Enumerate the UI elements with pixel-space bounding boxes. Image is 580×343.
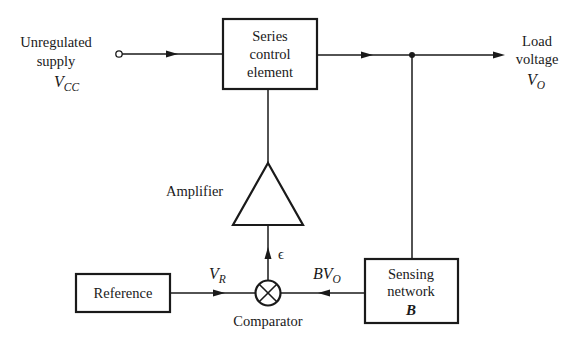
comparator-label: Comparator: [233, 313, 302, 329]
sensing-label-line2: network: [387, 283, 435, 299]
sensing-label-line3: B: [405, 302, 416, 318]
error-signal: ϵ: [265, 225, 285, 280]
sensing-label-line1: Sensing: [388, 266, 434, 282]
output-label-line2: voltage: [516, 51, 559, 67]
feedback-symbol: BVO: [313, 265, 342, 285]
series-label-line2: control: [249, 46, 290, 62]
arrow-icon: [265, 247, 272, 259]
input-connection: [116, 51, 223, 58]
reference-voltage-symbol: VR: [209, 265, 226, 285]
comparator-block: Comparator: [233, 281, 302, 330]
series-label-line3: element: [247, 64, 293, 80]
amplifier-triangle-icon: [233, 163, 303, 225]
arrow-icon: [318, 290, 330, 297]
amplifier-label: Amplifier: [166, 183, 223, 199]
input-label-line2: supply: [37, 53, 76, 69]
amplifier-block: Amplifier: [166, 163, 303, 225]
sensing-network-block: Sensing network B BVO: [281, 259, 459, 323]
arrow-icon: [213, 290, 225, 297]
output-label-line1: Load: [522, 33, 553, 49]
output-label: Load voltage VO: [516, 33, 559, 91]
input-symbol: VCC: [54, 73, 79, 93]
output-arrow-icon: [493, 52, 505, 59]
reference-label: Reference: [94, 285, 153, 301]
error-label: ϵ: [278, 246, 284, 262]
series-control-block: Series control element: [223, 19, 317, 89]
reference-block: Reference VR: [76, 265, 256, 312]
arrow-icon: [166, 51, 178, 58]
input-label-line1: Unregulated: [20, 34, 92, 50]
input-terminal-icon: [116, 51, 122, 57]
output-symbol: VO: [527, 71, 546, 91]
output-connection: [317, 52, 505, 260]
series-label-line1: Series: [252, 28, 288, 44]
input-label: Unregulated supply VCC: [20, 34, 92, 93]
arrow-icon: [361, 52, 373, 59]
regulator-block-diagram: Unregulated supply VCC Series control el…: [0, 0, 580, 343]
